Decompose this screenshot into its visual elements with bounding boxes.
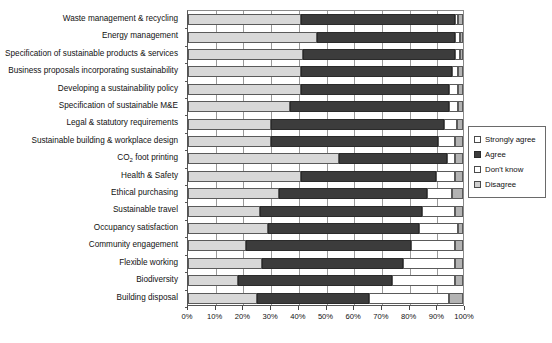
x-tick	[187, 306, 188, 310]
bar-segment-disagree	[455, 258, 463, 269]
bar-segment-strongly	[188, 32, 317, 43]
bar-segment-agree	[238, 275, 392, 286]
bar-segment-agree	[262, 258, 402, 269]
bar-segment-disagree	[458, 101, 464, 112]
x-tick-label: 80%	[401, 312, 416, 321]
category-label-subscript: 2	[130, 157, 133, 163]
bar-segment-dont	[447, 153, 455, 164]
legend-label: Don't know	[485, 165, 523, 174]
category-label: Flexible working	[0, 254, 183, 271]
stacked-bar	[188, 275, 463, 286]
bar-segment-strongly	[188, 223, 268, 234]
bar-segment-dont	[427, 188, 452, 199]
bar-segment-dont	[403, 258, 455, 269]
bar-row	[188, 185, 463, 202]
bar-row	[188, 220, 463, 237]
bar-segment-agree	[257, 293, 370, 304]
bar-segment-strongly	[188, 119, 271, 130]
bar-segment-disagree	[458, 84, 464, 95]
bar-segment-agree	[303, 49, 454, 60]
bar-segment-dont	[411, 240, 455, 251]
bar-segment-dont	[436, 171, 455, 182]
bar-segment-agree	[279, 188, 427, 199]
bar-segment-dont	[392, 275, 455, 286]
bar-segment-agree	[317, 32, 455, 43]
stacked-bar	[188, 188, 463, 199]
bar-row	[188, 115, 463, 132]
legend-swatch-agree	[474, 151, 481, 158]
bar-segment-dont	[422, 206, 455, 217]
bar-segment-disagree	[458, 66, 464, 77]
bar-row	[188, 98, 463, 115]
x-tick-label: 30%	[262, 312, 277, 321]
stacked-bar	[188, 206, 463, 217]
category-label: Legal & statutory requirements	[0, 114, 183, 131]
stacked-bar-chart: Waste management & recyclingEnergy manag…	[0, 0, 552, 343]
legend-item[interactable]: Don't know	[474, 162, 541, 177]
legend-label: Disagree	[485, 180, 516, 189]
x-tick	[242, 306, 243, 310]
x-tick	[270, 306, 271, 310]
x-tick	[464, 306, 465, 310]
category-label: Biodiversity	[0, 271, 183, 288]
stacked-bar	[188, 136, 463, 147]
category-label: Business proposals incorporating sustain…	[0, 62, 183, 79]
x-tick-label: 50%	[318, 312, 333, 321]
x-tick	[215, 306, 216, 310]
bar-segment-dont	[444, 119, 458, 130]
stacked-bar	[188, 32, 463, 43]
bar-segment-strongly	[188, 171, 301, 182]
legend-item[interactable]: Agree	[474, 147, 541, 162]
x-tick	[353, 306, 354, 310]
bar-segment-dont	[449, 101, 457, 112]
bar-segment-strongly	[188, 14, 301, 25]
category-label: Ethical purchasing	[0, 184, 183, 201]
legend-label: Strongly agree	[485, 135, 536, 144]
bar-segment-agree	[301, 66, 452, 77]
x-tick	[436, 306, 437, 310]
x-tick	[298, 306, 299, 310]
bar-row	[188, 63, 463, 80]
bar-segment-strongly	[188, 84, 301, 95]
bar-segment-agree	[268, 223, 419, 234]
bar-row	[188, 133, 463, 150]
category-label: Energy management	[0, 27, 183, 44]
bar-segment-disagree	[455, 206, 463, 217]
category-label: Community engagement	[0, 236, 183, 253]
bar-row	[188, 255, 463, 272]
bar-row	[188, 272, 463, 289]
legend-swatch-disagree	[474, 181, 481, 188]
category-label: CO2 foot printing	[0, 149, 183, 166]
category-label: Occupancy satisfaction	[0, 219, 183, 236]
bar-segment-disagree	[455, 275, 463, 286]
legend-item[interactable]: Strongly agree	[474, 132, 541, 147]
legend-label: Agree	[485, 150, 506, 159]
x-tick	[409, 306, 410, 310]
category-label-text: CO	[117, 153, 129, 162]
bar-segment-agree	[301, 14, 455, 25]
stacked-bar	[188, 101, 463, 112]
legend: Strongly agreeAgreeDon't knowDisagree	[468, 126, 546, 198]
bar-row	[188, 290, 463, 307]
stacked-bar	[188, 223, 463, 234]
bar-segment-disagree	[458, 223, 464, 234]
stacked-bar	[188, 49, 463, 60]
x-tick-label: 40%	[290, 312, 305, 321]
category-label: Sustainable travel	[0, 201, 183, 218]
bar-segment-strongly	[188, 188, 279, 199]
bar-row	[188, 202, 463, 219]
bar-rows	[188, 11, 463, 305]
bar-segment-disagree	[455, 171, 463, 182]
legend-item[interactable]: Disagree	[474, 177, 541, 192]
stacked-bar	[188, 293, 463, 304]
bar-segment-agree	[301, 84, 450, 95]
stacked-bar	[188, 240, 463, 251]
x-tick-label: 60%	[346, 312, 361, 321]
bar-segment-strongly	[188, 136, 271, 147]
bar-segment-dont	[449, 84, 457, 95]
bar-segment-strongly	[188, 293, 257, 304]
category-label-suffix: foot printing	[133, 153, 178, 162]
stacked-bar	[188, 119, 463, 130]
legend-swatch-strongly	[474, 136, 481, 143]
x-tick-label: 100%	[454, 312, 473, 321]
